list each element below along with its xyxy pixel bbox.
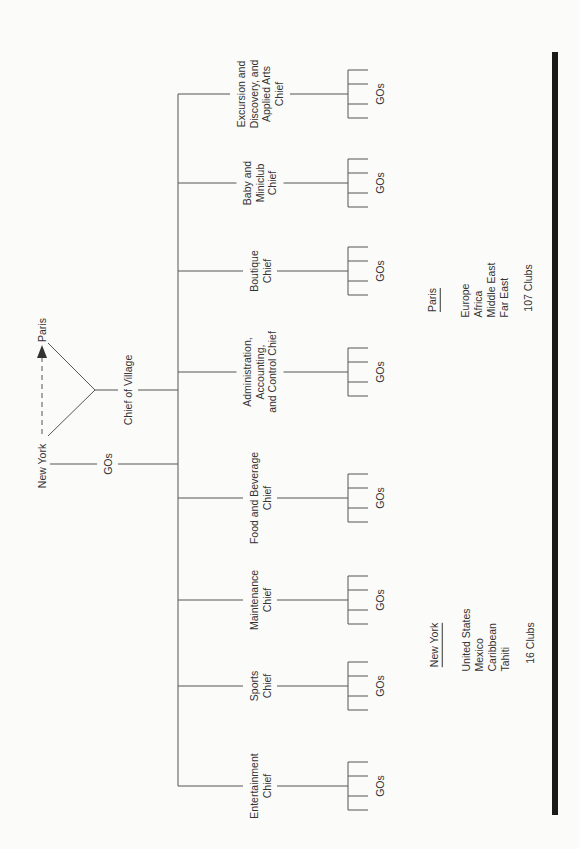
- new-york-label: New York: [36, 444, 49, 488]
- chief-label: EntertainmentChief: [248, 753, 273, 818]
- area-far-east: Far East: [498, 263, 511, 318]
- chief-label-line: Administration,: [241, 331, 254, 413]
- chief-label-line: Baby and: [241, 161, 254, 205]
- chief-label-line: Miniclub: [254, 161, 267, 205]
- chief-label: Baby andMiniclubChief: [241, 161, 279, 205]
- top-gos-label: GOs: [102, 453, 115, 475]
- chief-label-line: Chief: [260, 671, 273, 701]
- gos-label: GOs: [374, 487, 387, 509]
- chief-label-line: Chief: [273, 60, 286, 129]
- chief-label-line: Sports: [248, 671, 261, 701]
- area-tahiti: Tahiti: [499, 608, 512, 671]
- new-york-areas: United States Mexico Caribbean Tahiti: [460, 608, 512, 671]
- gos-label: GOs: [374, 260, 387, 282]
- chief-label-line: Chief: [266, 161, 279, 205]
- chief-label: Administration,Accounting,and Control Ch…: [241, 331, 279, 413]
- chief-label-line: Excursion and: [235, 60, 248, 129]
- chief-label-line: Boutique: [248, 250, 261, 291]
- gos-label: GOs: [374, 172, 387, 194]
- chief-label-line: Chief: [260, 570, 273, 630]
- chief-label-line: Chief: [260, 250, 273, 291]
- new-york-clubs: 16 Clubs: [524, 622, 537, 663]
- chief-label-line: Accounting,: [254, 331, 267, 413]
- area-caribbean: Caribbean: [486, 608, 499, 671]
- paris-areas: Europe Africa Middle East Far East: [459, 263, 511, 318]
- paris-region-title: Paris: [426, 288, 439, 312]
- chief-label-line: Maintenance: [248, 570, 261, 630]
- chief-label-line: Entertainment: [248, 753, 261, 818]
- chief-of-village-label: Chief of Village: [122, 355, 135, 425]
- arrow-head-icon: [37, 345, 47, 358]
- chief-label-line: and Control Chief: [266, 331, 279, 413]
- chief-label-line: Food and Beverage: [248, 452, 261, 544]
- area-united-states: United States: [460, 608, 473, 671]
- area-africa: Africa: [472, 263, 485, 318]
- new-york-region: New York: [428, 623, 441, 667]
- gos-label: GOs: [374, 589, 387, 611]
- area-mexico: Mexico: [473, 608, 486, 671]
- chief-label: SportsChief: [248, 671, 273, 701]
- chief-label-line: Chief: [260, 452, 273, 544]
- chief-label-line: Applied Arts: [260, 60, 273, 129]
- new-york-region-title: New York: [428, 623, 441, 667]
- gos-label: GOs: [374, 675, 387, 697]
- gos-label: GOs: [374, 361, 387, 383]
- paris-region: Paris: [426, 288, 439, 312]
- area-middle-east: Middle East: [485, 263, 498, 318]
- chief-label: BoutiqueChief: [248, 250, 273, 291]
- chief-label-line: Chief: [260, 753, 273, 818]
- chief-label: Excursion andDiscovery, andApplied ArtsC…: [235, 60, 285, 129]
- chief-label: MaintenanceChief: [248, 570, 273, 630]
- paris-label: Paris: [36, 318, 49, 342]
- chief-label-line: Discovery, and: [248, 60, 261, 129]
- chief-label: Food and BeverageChief: [248, 452, 273, 544]
- gos-label: GOs: [374, 83, 387, 105]
- paris-clubs: 107 Clubs: [522, 264, 535, 311]
- thick-bar: [552, 52, 558, 815]
- area-europe: Europe: [459, 263, 472, 318]
- gos-label: GOs: [374, 775, 387, 797]
- org-chart-lines: [0, 0, 579, 849]
